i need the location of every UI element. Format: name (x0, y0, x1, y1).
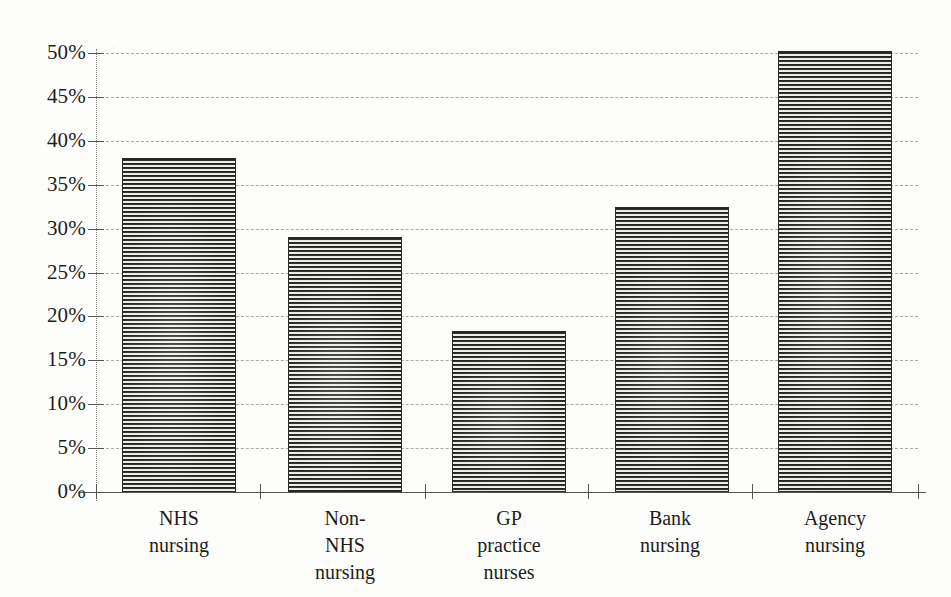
bar-5[interactable] (778, 51, 892, 492)
y-axis-tick-label: 20% (16, 303, 86, 328)
y-axis-tick-mark (88, 448, 104, 449)
x-axis-tick-mark (260, 484, 261, 499)
x-axis-tick-mark (752, 484, 753, 499)
y-axis-tick-label: 40% (16, 128, 86, 153)
y-axis-tick-mark (88, 97, 104, 98)
y-axis-tick-label: 15% (16, 347, 86, 372)
x-axis-tick-mark (918, 484, 919, 499)
y-axis-tick-mark (88, 53, 104, 54)
y-axis-tick-mark (88, 360, 104, 361)
y-axis-tick-label: 35% (16, 172, 86, 197)
y-axis-tick-mark (88, 229, 104, 230)
x-axis-line (78, 492, 926, 493)
x-axis-tick-mark (425, 484, 426, 499)
bar-1[interactable] (122, 158, 236, 492)
bar-2[interactable] (288, 237, 402, 492)
y-axis-tick-mark (88, 404, 104, 405)
y-axis-tick-mark (88, 316, 104, 317)
y-axis-tick-label: 50% (16, 40, 86, 65)
y-axis-tick-label: 0% (16, 479, 86, 504)
x-axis-tick-mark (588, 484, 589, 499)
y-axis-tick-label: 45% (16, 84, 86, 109)
x-axis-category-label-2: Non- NHS nursing (265, 505, 425, 586)
y-axis-tick-label: 10% (16, 391, 86, 416)
x-axis-category-label-3: GP practice nurses (429, 505, 589, 586)
y-axis-tick-mark (88, 492, 104, 493)
chart-page: 0%5%10%15%20%25%30%35%40%45%50% NHS nurs… (0, 0, 951, 597)
y-axis-tick-label: 5% (16, 435, 86, 460)
bar-4[interactable] (615, 207, 729, 492)
x-axis-category-label-5: Agency nursing (755, 505, 915, 559)
x-axis-category-label-1: NHS nursing (99, 505, 259, 559)
y-axis-tick-mark (88, 185, 104, 186)
y-axis-tick-mark (88, 273, 104, 274)
y-axis-tick-label: 25% (16, 260, 86, 285)
y-axis-tick-mark (88, 141, 104, 142)
bar-3[interactable] (452, 331, 566, 492)
plot-area (96, 53, 918, 492)
y-axis-tick-labels: 0%5%10%15%20%25%30%35%40%45%50% (8, 0, 86, 597)
x-axis-category-label-4: Bank nursing (590, 505, 750, 559)
y-axis-tick-label: 30% (16, 216, 86, 241)
